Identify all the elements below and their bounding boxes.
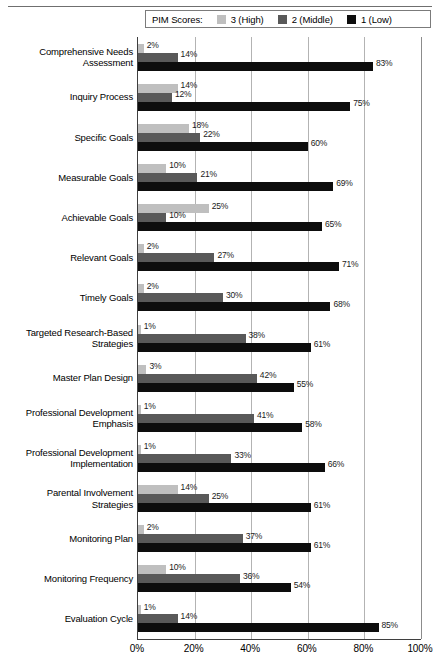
bar-segment[interactable]	[138, 293, 223, 302]
bar-segment[interactable]	[138, 262, 339, 271]
bar-group: 2%30%68%	[138, 284, 421, 311]
bar-value-label: 2%	[147, 242, 159, 251]
bar-row: 1%	[138, 325, 421, 334]
bar-segment[interactable]	[138, 253, 214, 262]
bar-value-label: 22%	[203, 130, 219, 139]
bar-row: 71%	[138, 262, 421, 271]
bar-segment[interactable]	[138, 102, 350, 111]
bar-value-label: 14%	[181, 483, 197, 492]
bar-segment[interactable]	[138, 374, 257, 383]
bar-row: 10%	[138, 213, 421, 222]
legend-item-s2[interactable]: 2 (Middle)	[278, 14, 333, 25]
bar-value-label: 1%	[144, 603, 156, 612]
bar-segment[interactable]	[138, 173, 197, 182]
bar-segment[interactable]	[138, 485, 178, 494]
bar-value-label: 14%	[181, 612, 197, 621]
bar-value-label: 2%	[147, 282, 159, 291]
bar-group: 2%27%71%	[138, 244, 421, 271]
bar-group: 3%42%55%	[138, 365, 421, 392]
bar-segment[interactable]	[138, 284, 144, 293]
x-tick-label: 60%	[297, 643, 317, 654]
legend-swatch-icon	[217, 15, 226, 24]
legend-title: PIM Scores:	[152, 14, 203, 25]
bar-segment[interactable]	[138, 614, 178, 623]
bar-segment[interactable]	[138, 164, 166, 173]
legend-item-s1[interactable]: 1 (Low)	[347, 14, 392, 25]
bar-group: 1%41%58%	[138, 405, 421, 432]
bar-value-label: 14%	[181, 50, 197, 59]
bar-row: 55%	[138, 383, 421, 392]
bar-row: 2%	[138, 284, 421, 293]
bar-group: 2%37%61%	[138, 525, 421, 552]
gridline-100	[421, 37, 422, 639]
bar-segment[interactable]	[138, 62, 373, 71]
bar-segment[interactable]	[138, 605, 141, 614]
bar-segment[interactable]	[138, 133, 200, 142]
bar-segment[interactable]	[138, 565, 166, 574]
bar-segment[interactable]	[138, 182, 333, 191]
bar-segment[interactable]	[138, 142, 308, 151]
bar-segment[interactable]	[138, 405, 141, 414]
bar-segment[interactable]	[138, 534, 243, 543]
bar-segment[interactable]	[138, 53, 178, 62]
bar-segment[interactable]	[138, 414, 254, 423]
bar-value-label: 3%	[149, 362, 161, 371]
bar-group: 25%10%65%	[138, 204, 421, 231]
bar-segment[interactable]	[138, 44, 144, 53]
bar-value-label: 25%	[212, 492, 228, 501]
bar-segment[interactable]	[138, 423, 302, 432]
bar-value-label: 33%	[234, 451, 250, 460]
bar-segment[interactable]	[138, 93, 172, 102]
bar-group: 1%33%66%	[138, 445, 421, 472]
bar-segment[interactable]	[138, 222, 322, 231]
bar-segment[interactable]	[138, 84, 178, 93]
bar-segment[interactable]	[138, 325, 141, 334]
bar-segment[interactable]	[138, 623, 379, 632]
bar-segment[interactable]	[138, 244, 144, 253]
bar-segment[interactable]	[138, 383, 294, 392]
bar-segment[interactable]	[138, 583, 291, 592]
bar-segment[interactable]	[138, 543, 311, 552]
bar-row: 66%	[138, 463, 421, 472]
bar-segment[interactable]	[138, 365, 146, 374]
bar-row: 3%	[138, 365, 421, 374]
bar-segment[interactable]	[138, 343, 311, 352]
legend-item-s3[interactable]: 3 (High)	[217, 14, 264, 25]
bar-value-label: 42%	[260, 371, 276, 380]
bar-row: 30%	[138, 293, 421, 302]
bar-value-label: 58%	[305, 420, 321, 429]
bar-segment[interactable]	[138, 454, 231, 463]
bar-row: 83%	[138, 62, 421, 71]
bar-value-label: 61%	[314, 501, 330, 510]
bar-segment[interactable]	[138, 494, 209, 503]
bar-segment[interactable]	[138, 445, 141, 454]
category-axis-labels: Comprehensive NeedsAssessmentInquiry Pro…	[0, 37, 133, 639]
bar-value-label: 1%	[144, 322, 156, 331]
bar-value-label: 2%	[147, 523, 159, 532]
bar-group: 10%21%69%	[138, 164, 421, 191]
bar-value-label: 69%	[336, 179, 352, 188]
bar-value-label: 10%	[169, 161, 185, 170]
legend-swatch-icon	[347, 15, 356, 24]
bar-segment[interactable]	[138, 463, 325, 472]
bar-segment[interactable]	[138, 213, 166, 222]
bar-row: 12%	[138, 93, 421, 102]
legend-item-label: 1 (Low)	[361, 14, 392, 25]
x-axis-ticks: 0%20%40%60%80%100%	[137, 643, 420, 659]
bar-value-label: 30%	[226, 291, 242, 300]
bar-row: 27%	[138, 253, 421, 262]
bar-segment[interactable]	[138, 124, 189, 133]
category-label: Timely Goals	[0, 292, 133, 304]
bar-row: 42%	[138, 374, 421, 383]
bar-row: 65%	[138, 222, 421, 231]
bar-segment[interactable]	[138, 503, 311, 512]
legend-swatch-icon	[278, 15, 287, 24]
bar-segment[interactable]	[138, 525, 144, 534]
bar-segment[interactable]	[138, 302, 330, 311]
bar-segment[interactable]	[138, 334, 246, 343]
bar-row: 33%	[138, 454, 421, 463]
bar-row: 14%	[138, 614, 421, 623]
bar-value-label: 60%	[311, 139, 327, 148]
bar-group: 1%14%85%	[138, 605, 421, 632]
bar-segment[interactable]	[138, 574, 240, 583]
